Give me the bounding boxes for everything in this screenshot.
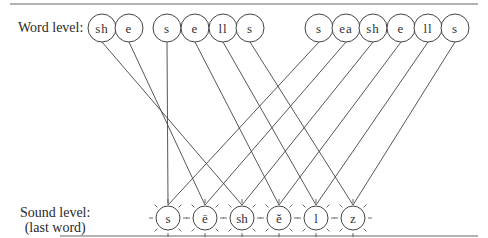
sound-ray	[364, 229, 367, 232]
word-unit: e	[115, 14, 143, 42]
sound-ray	[340, 229, 343, 232]
word-unit: ea	[332, 14, 360, 42]
sound-ray	[179, 205, 182, 208]
connector-line	[167, 42, 168, 205]
sound-unit-text: z	[350, 211, 356, 226]
sound-ray	[340, 205, 343, 208]
sound-unit-text: ē	[202, 211, 208, 226]
sound-ray	[155, 205, 158, 208]
sound-level-label: Sound level: (last word)	[20, 205, 90, 235]
word-unit-text: s	[247, 21, 253, 36]
word-unit: ll	[414, 14, 442, 42]
connector-line	[279, 42, 401, 205]
sound-ray	[266, 205, 269, 208]
word-unit-text: sh	[95, 21, 109, 36]
sound-ray	[155, 229, 158, 232]
word-unit-text: e	[398, 21, 405, 36]
sound-ray	[216, 205, 219, 208]
connector-line	[102, 42, 242, 205]
word-unit-text: s	[316, 21, 322, 36]
word-unit-text: ll	[423, 21, 432, 36]
word-unit-text: ll	[218, 21, 227, 36]
word-unit-text: sh	[366, 21, 380, 36]
word-unit-text: s	[164, 21, 170, 36]
word-unit-text: s	[452, 21, 458, 36]
sound-ray	[179, 229, 182, 232]
word-unit: e	[181, 14, 209, 42]
sound-ray	[192, 205, 195, 208]
word-unit: s	[236, 14, 264, 42]
word-unit: s	[441, 14, 469, 42]
word-unit-text: e	[126, 21, 133, 36]
sound-ray	[192, 229, 195, 232]
sound-ray	[290, 205, 293, 208]
connector-line	[316, 42, 428, 205]
word-unit: s	[305, 14, 333, 42]
sound-ray	[364, 205, 367, 208]
sound-ray	[266, 229, 269, 232]
word-level-label: Word level:	[18, 20, 83, 36]
word-unit: e	[387, 14, 415, 42]
sound-ray	[327, 229, 330, 232]
sound-ray	[229, 229, 232, 232]
word-unit: ll	[209, 14, 237, 42]
connector-line	[168, 42, 319, 205]
sound-level-units: sēshĕlz	[149, 199, 372, 237]
sound-unit-text: s	[165, 211, 170, 226]
sound-ray	[290, 229, 293, 232]
connector-line	[353, 42, 455, 205]
sound-ray	[327, 205, 330, 208]
word-unit-text: e	[192, 21, 199, 36]
sound-ray	[253, 229, 256, 232]
word-unit-text: ea	[339, 21, 353, 36]
word-level-units: shesellsseashells	[88, 14, 469, 42]
sound-level-label-line2: (last word)	[20, 220, 90, 235]
word-unit: sh	[88, 14, 116, 42]
connector-line	[242, 42, 373, 205]
connector-line	[250, 42, 353, 205]
sound-unit-text: sh	[236, 211, 248, 226]
sound-ray	[303, 205, 306, 208]
word-unit: sh	[359, 14, 387, 42]
sound-ray	[303, 229, 306, 232]
sound-unit-text: l	[314, 211, 318, 226]
connector-line	[205, 42, 346, 205]
word-unit: s	[153, 14, 181, 42]
sound-ray	[229, 205, 232, 208]
sound-ray	[253, 205, 256, 208]
sound-level-label-line1: Sound level:	[20, 205, 90, 220]
sound-unit-text: ĕ	[276, 211, 282, 226]
connector-lines	[102, 42, 455, 205]
sound-ray	[216, 229, 219, 232]
